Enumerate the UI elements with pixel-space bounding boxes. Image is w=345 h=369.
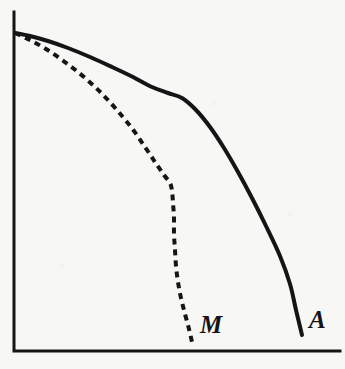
curve-m-dashed (15, 33, 192, 342)
plot-canvas (0, 0, 345, 369)
figure-container: M A (0, 0, 345, 369)
curve-label-a: A (309, 307, 326, 332)
curve-label-m: M (200, 312, 222, 337)
curve-a-solid (15, 33, 302, 335)
data-curves (15, 33, 302, 342)
